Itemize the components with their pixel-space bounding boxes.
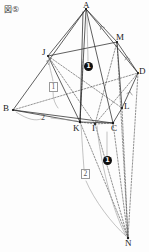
vertex-label-D: D bbox=[139, 67, 146, 76]
annotation-guides bbox=[16, 12, 126, 236]
boxed-label-one: 1 bbox=[49, 82, 58, 92]
vertex-label-N: N bbox=[125, 239, 132, 248]
edge-J-M bbox=[48, 42, 117, 56]
dot-B bbox=[12, 109, 14, 111]
guide-A-drop bbox=[87, 12, 88, 61]
edge-C-N bbox=[113, 123, 128, 238]
projection-lines-to-N bbox=[80, 42, 138, 238]
guide-boxed2-to-N bbox=[86, 181, 126, 236]
dot-J bbox=[47, 55, 49, 57]
vertex-label-I: I bbox=[92, 124, 95, 133]
boxed-label-two: 2 bbox=[81, 169, 90, 179]
guide-K-to-boxed2 bbox=[81, 125, 84, 169]
edge-A-J-side bbox=[48, 9, 86, 56]
circled-marker-upper: 1 bbox=[84, 62, 93, 71]
vertex-label-B: B bbox=[3, 104, 9, 113]
ratio-label-two: 2 bbox=[41, 113, 45, 122]
guide-boxed1-to-base bbox=[53, 92, 58, 108]
figure-tag: 図⑤ bbox=[4, 3, 19, 14]
edge-M-I bbox=[95, 42, 117, 124]
circled-marker-lower: 1 bbox=[103, 156, 112, 165]
dot-L bbox=[121, 107, 123, 109]
vertex-label-C: C bbox=[111, 124, 117, 133]
vertex-label-A: A bbox=[83, 1, 90, 10]
edge-B-D bbox=[13, 73, 138, 110]
edge-L-C bbox=[113, 108, 122, 123]
vertex-label-K: K bbox=[73, 124, 80, 133]
vertex-label-L: L bbox=[124, 102, 130, 111]
vertex-label-J: J bbox=[42, 48, 46, 57]
guide-two-arc-right bbox=[51, 118, 77, 121]
edge-D-N bbox=[128, 73, 138, 238]
vertex-label-M: M bbox=[116, 33, 124, 42]
edge-A-M bbox=[86, 9, 117, 42]
figure-canvas: 図⑤ A M D J B L K I C N 1 1 1 2 2 bbox=[0, 0, 149, 252]
edge-I-D bbox=[95, 73, 138, 124]
edge-K-N bbox=[80, 122, 128, 238]
